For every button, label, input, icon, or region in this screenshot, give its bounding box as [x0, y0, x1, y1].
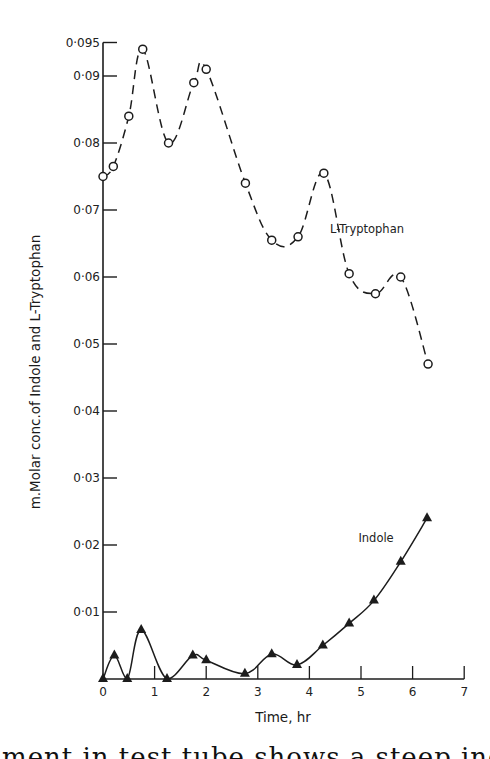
- y-tick-label: 0·04: [73, 404, 100, 418]
- data-point-circle: [345, 270, 353, 278]
- x-tick-label: 4: [306, 685, 314, 699]
- y-tick-label: 0·095: [66, 36, 100, 50]
- x-tick-label: 3: [254, 685, 262, 699]
- data-point-circle: [241, 179, 249, 187]
- x-tick-label: 5: [357, 685, 365, 699]
- data-point-triangle: [109, 650, 119, 659]
- data-point-circle: [424, 360, 432, 368]
- data-point-triangle: [344, 617, 354, 626]
- y-tick-label: 0·08: [73, 136, 100, 150]
- series-line: [103, 49, 428, 364]
- data-point-circle: [99, 173, 107, 181]
- caption-fragment: ment in test tube shows a steep incline …: [0, 744, 490, 759]
- data-point-triangle: [422, 512, 432, 521]
- data-point-circle: [320, 169, 328, 177]
- x-tick-label: 6: [409, 685, 417, 699]
- y-tick-label: 0·06: [73, 270, 100, 284]
- x-tick-label: 2: [202, 685, 210, 699]
- y-tick-label: 0·05: [73, 337, 100, 351]
- series-label: Indole: [358, 531, 393, 545]
- data-point-circle: [371, 290, 379, 298]
- chart-canvas: 0·010·020·030·040·050·060·070·080·090·09…: [0, 0, 490, 759]
- series-labels: L-TryptophanIndole: [330, 222, 404, 544]
- y-axis-title: m.Molar conc.of Indole and L-Tryptophan: [27, 235, 43, 510]
- x-tick-label: 7: [460, 685, 468, 699]
- data-point-circle: [202, 65, 210, 73]
- data-point-triangle: [136, 624, 146, 633]
- data-point-circle: [125, 112, 133, 120]
- x-axis-title: Time, hr: [254, 709, 311, 725]
- x-axis: 01234567: [99, 666, 468, 699]
- x-tick-label: 1: [151, 685, 159, 699]
- data-point-circle: [165, 139, 173, 147]
- data-point-triangle: [318, 640, 328, 649]
- data-point-triangle: [98, 673, 108, 682]
- x-tick-label: 0: [99, 685, 107, 699]
- data-point-circle: [190, 79, 198, 87]
- y-tick-label: 0·02: [73, 538, 100, 552]
- y-tick-label: 0·09: [73, 69, 100, 83]
- y-tick-label: 0·03: [73, 471, 100, 485]
- y-tick-label: 0·07: [73, 203, 100, 217]
- data-point-circle: [109, 162, 117, 170]
- data-point-triangle: [267, 648, 277, 657]
- series-label: L-Tryptophan: [330, 222, 404, 236]
- data-point-circle: [268, 236, 276, 244]
- y-axis: 0·010·020·030·040·050·060·070·080·090·09…: [66, 36, 117, 680]
- data-point-circle: [397, 273, 405, 281]
- y-tick-label: 0·01: [73, 605, 100, 619]
- clipped-caption-text: ment in test tube shows a steep incline …: [0, 744, 490, 759]
- data-point-circle: [294, 233, 302, 241]
- series-tryptophan: [99, 45, 432, 368]
- data-point-circle: [139, 45, 147, 53]
